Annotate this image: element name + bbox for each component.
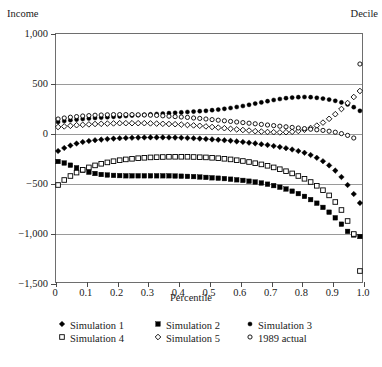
y-axis-tick-label: 0	[43, 128, 48, 139]
x-axis-tick-label: 0.1	[79, 287, 92, 298]
y-axis-tick-label: −1,500	[18, 278, 48, 289]
series-simulation-3	[56, 95, 362, 124]
series-simulation-2	[56, 159, 362, 239]
legend-label: Simulation 3	[258, 320, 316, 331]
filled-square-icon	[150, 319, 166, 331]
legend-row-2: Simulation 4 Simulation 5 1989 actual	[0, 332, 382, 344]
x-axis-tick-label: 0.7	[264, 287, 277, 298]
x-axis-tick-label: 1.0	[356, 287, 369, 298]
x-axis-tick-labels: 00.10.20.30.40.50.60.70.80.91.0	[55, 287, 363, 301]
series-simulation-1	[55, 135, 362, 206]
open-diamond-icon	[150, 332, 166, 344]
x-axis-tick-label: 0.9	[326, 287, 339, 298]
legend-label: Simulation 2	[166, 320, 224, 331]
right-axis-title: Decile	[351, 8, 378, 19]
chart-legend: Simulation 1 Simulation 2 Simulation 3 S…	[0, 318, 382, 345]
figure: Income Decile Percentile −1,500−1,000−50…	[0, 0, 382, 367]
x-axis-tick-label: 0.3	[141, 287, 154, 298]
legend-item-simulation-5: Simulation 5	[150, 332, 242, 344]
legend-label: Simulation 1	[70, 320, 128, 331]
x-axis-tick-label: 0.4	[172, 287, 185, 298]
x-axis-tick-label: 0.2	[110, 287, 123, 298]
x-axis-tick-label: 0.6	[233, 287, 246, 298]
series-1989-actual	[56, 62, 362, 140]
y-axis-title: Income	[7, 8, 39, 19]
y-axis-tick-label: 1,000	[24, 28, 48, 39]
legend-label: 1989 actual	[258, 333, 311, 344]
legend-item-simulation-4: Simulation 4	[54, 332, 150, 344]
legend-row-1: Simulation 1 Simulation 2 Simulation 3	[0, 319, 382, 331]
filled-circle-icon	[242, 319, 258, 331]
open-circle-icon	[242, 332, 258, 344]
y-axis-tick-label: 500	[32, 78, 48, 89]
legend-label: Simulation 5	[166, 333, 224, 344]
filled-diamond-icon	[54, 319, 70, 331]
x-axis-tick-label: 0.5	[202, 287, 215, 298]
x-axis-tick-label: 0	[52, 287, 57, 298]
legend-item-simulation-3: Simulation 3	[242, 319, 328, 331]
y-axis-tick-label: −500	[26, 178, 48, 189]
data-markers-layer	[55, 33, 363, 283]
y-axis-tick-labels: −1,500−1,000−50005001,000	[0, 33, 48, 283]
legend-item-simulation-1: Simulation 1	[54, 319, 150, 331]
open-square-icon	[54, 332, 70, 344]
x-axis-tick-label: 0.8	[295, 287, 308, 298]
cut-off-caption-text	[0, 0, 382, 6]
legend-label: Simulation 4	[70, 333, 128, 344]
legend-item-1989-actual: 1989 actual	[242, 332, 328, 344]
legend-item-simulation-2: Simulation 2	[150, 319, 242, 331]
y-axis-tick-label: −1,000	[18, 228, 48, 239]
